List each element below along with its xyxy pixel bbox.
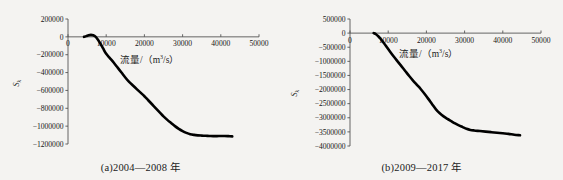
svg-text:200000: 200000	[41, 15, 64, 24]
svg-text:−1200000: −1200000	[33, 140, 64, 149]
caption-a: (a)2004—2008 年	[0, 159, 281, 174]
svg-text:30000: 30000	[455, 36, 474, 45]
svg-text:30000: 30000	[173, 39, 192, 48]
svg-text:−1500000: −1500000	[315, 71, 346, 80]
svg-text:50000: 50000	[250, 39, 269, 48]
svg-text:0: 0	[348, 36, 352, 45]
svg-text:−1000000: −1000000	[315, 57, 346, 66]
svg-text:20000: 20000	[135, 39, 154, 48]
svg-text:−500000: −500000	[318, 43, 345, 52]
svg-text:500000: 500000	[323, 15, 346, 24]
data-curve-a	[84, 35, 232, 137]
svg-text:0: 0	[66, 39, 70, 48]
chart-panel-a: 2000000−200000−400000−600000−800000−1000…	[0, 0, 281, 180]
svg-text:50000: 50000	[532, 36, 551, 45]
caption-b: (b)2009—2017 年	[281, 159, 562, 174]
y-axis-label-a: Sk	[12, 63, 23, 103]
svg-text:40000: 40000	[493, 36, 512, 45]
svg-text:−3500000: −3500000	[315, 128, 346, 137]
svg-text:−4000000: −4000000	[315, 142, 346, 151]
svg-text:−400000: −400000	[36, 68, 63, 77]
svg-text:−200000: −200000	[36, 50, 63, 59]
svg-text:0: 0	[342, 29, 346, 38]
svg-text:−2000000: −2000000	[315, 85, 346, 94]
svg-text:20000: 20000	[417, 36, 436, 45]
x-axis-label-a: 流量/（m3/s）	[120, 52, 179, 66]
plot-area-a: 2000000−200000−400000−600000−800000−1000…	[0, 0, 281, 180]
svg-text:−2500000: −2500000	[315, 99, 346, 108]
plot-area-b: 5000000−500000−1000000−1500000−2000000−2…	[281, 0, 563, 180]
svg-text:−600000: −600000	[36, 86, 63, 95]
figure-two-panel-chart: 2000000−200000−400000−600000−800000−1000…	[0, 0, 563, 180]
chart-panel-b: 5000000−500000−1000000−1500000−2000000−2…	[281, 0, 562, 180]
svg-text:0: 0	[60, 33, 64, 42]
svg-text:−3000000: −3000000	[315, 113, 346, 122]
svg-text:40000: 40000	[211, 39, 230, 48]
svg-text:−1000000: −1000000	[33, 122, 64, 131]
y-axis-label-b: Sk	[290, 73, 301, 113]
x-axis-label-b: 流量/（m3/s）	[399, 46, 458, 60]
svg-text:−800000: −800000	[36, 104, 63, 113]
